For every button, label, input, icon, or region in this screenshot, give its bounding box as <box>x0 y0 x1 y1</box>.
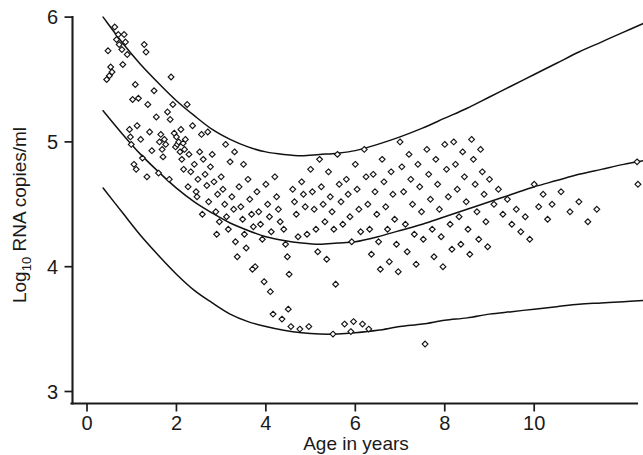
data-point <box>204 183 210 189</box>
data-point <box>576 199 582 205</box>
data-point <box>149 148 155 154</box>
centile-curve <box>103 188 643 334</box>
data-point <box>354 186 360 192</box>
data-point <box>326 169 332 175</box>
chart-canvas: 02468103456 Age in years Log10 RNA copie… <box>0 0 643 455</box>
scatter-plot-figure: 02468103456 Age in years Log10 RNA copie… <box>0 0 643 455</box>
data-point <box>276 206 282 212</box>
data-point <box>170 102 176 108</box>
data-point <box>160 154 166 160</box>
data-point <box>308 166 314 172</box>
data-point <box>209 151 215 157</box>
data-point <box>313 226 319 232</box>
data-point <box>200 156 206 162</box>
data-point <box>258 221 264 227</box>
data-point <box>481 191 487 197</box>
data-point <box>491 201 497 207</box>
data-point <box>483 219 489 225</box>
data-point <box>379 156 385 162</box>
data-point <box>184 102 190 108</box>
data-point <box>242 231 248 237</box>
data-point <box>285 306 291 312</box>
data-point <box>410 201 416 207</box>
data-point <box>231 206 237 212</box>
data-point <box>202 171 208 177</box>
data-point <box>284 254 290 260</box>
data-point <box>386 259 392 265</box>
data-point <box>193 189 199 195</box>
data-point <box>509 221 515 227</box>
data-point <box>311 206 317 212</box>
data-point <box>238 204 244 210</box>
data-point <box>390 191 396 197</box>
data-point <box>259 236 265 242</box>
data-point <box>240 216 246 222</box>
data-point <box>330 331 336 337</box>
data-point <box>440 264 446 270</box>
data-point <box>127 134 133 140</box>
x-axis-title: Age in years <box>303 433 409 454</box>
data-point <box>411 231 417 237</box>
data-point <box>383 204 389 210</box>
data-point <box>444 166 450 172</box>
data-point <box>188 169 194 175</box>
data-point <box>336 181 342 187</box>
data-point <box>306 324 312 330</box>
data-point <box>295 234 301 240</box>
data-point <box>388 169 394 175</box>
data-point <box>424 146 430 152</box>
data-point <box>478 146 484 152</box>
data-point <box>462 174 468 180</box>
data-point <box>178 127 184 133</box>
data-point <box>472 181 478 187</box>
data-point <box>460 149 466 155</box>
data-point <box>585 219 591 225</box>
data-point <box>540 191 546 197</box>
data-point <box>429 226 435 232</box>
data-point <box>138 137 144 143</box>
data-point <box>456 214 462 220</box>
data-point <box>635 181 641 187</box>
data-point <box>536 204 542 210</box>
data-point <box>232 149 238 155</box>
y-tick-label-3: 3 <box>47 381 58 403</box>
data-point <box>147 129 153 135</box>
data-point <box>458 241 464 247</box>
x-tick-label-4: 4 <box>260 412 271 434</box>
data-point <box>487 176 493 182</box>
data-point <box>363 174 369 180</box>
data-point <box>186 151 192 157</box>
centile-curve <box>103 17 643 156</box>
data-point <box>156 170 162 176</box>
data-point <box>293 211 299 217</box>
data-point <box>454 186 460 192</box>
data-point <box>408 176 414 182</box>
data-point <box>365 201 371 207</box>
data-point <box>463 199 469 205</box>
data-point <box>297 326 303 332</box>
data-point <box>431 254 437 260</box>
data-point <box>205 129 211 135</box>
data-point <box>331 226 337 232</box>
data-point <box>476 236 482 242</box>
y-axis-title-main: RNA copies/ml <box>9 127 30 257</box>
data-point <box>233 239 239 245</box>
data-point <box>281 226 287 232</box>
data-point <box>283 241 289 247</box>
data-point <box>567 209 573 215</box>
data-point <box>549 201 555 207</box>
data-point <box>292 199 298 205</box>
data-point <box>453 161 459 167</box>
axis-tick-labels: 02468103456 <box>47 6 545 434</box>
data-point <box>404 249 410 255</box>
data-point <box>428 196 434 202</box>
data-point <box>290 186 296 192</box>
data-point <box>349 239 355 245</box>
data-point <box>168 74 174 80</box>
data-point <box>215 191 221 197</box>
data-point <box>214 231 220 237</box>
data-point <box>206 199 212 205</box>
data-point <box>351 319 357 325</box>
data-point <box>356 206 362 212</box>
data-point <box>545 216 551 222</box>
